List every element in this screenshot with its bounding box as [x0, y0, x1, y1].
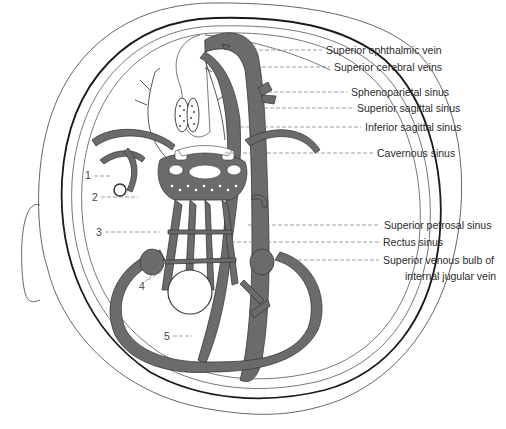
label-sphenoparietal-sinus: Sphenoparietal sinus	[351, 86, 449, 98]
label-superior-ophthalmic-vein: Superior ophthalmic vein	[326, 44, 442, 56]
olfactory-bulbs	[175, 98, 199, 132]
sinus-diagram: Superior ophthalmic vein Superior cerebr…	[0, 0, 506, 429]
label-number-1: 1	[85, 169, 91, 181]
label-number-5: 5	[164, 330, 170, 342]
label-superior-sagittal-sinus: Superior sagittal sinus	[357, 102, 460, 114]
label-number-2: 2	[92, 191, 98, 203]
ear-outline	[22, 204, 40, 301]
label-internal-jugular-vein: internal jugular vein	[405, 270, 496, 282]
left-jugular-bulb	[140, 249, 164, 275]
label-cavernous-sinus: Cavernous sinus	[377, 147, 455, 159]
label-superior-venous-bulb: Superior venous bulb of	[383, 254, 494, 266]
label-superior-petrosal-sinus: Superior petrosal sinus	[384, 219, 491, 231]
foramen-magnum	[168, 270, 212, 314]
sinus-network	[92, 33, 322, 382]
label-inferior-sagittal-sinus: Inferior sagittal sinus	[365, 121, 461, 133]
label-rectus-sinus: Rectus sinus	[383, 236, 443, 248]
label-superior-cerebral-veins: Superior cerebral veins	[334, 61, 442, 73]
label-number-3: 3	[96, 226, 102, 238]
right-jugular-bulb	[250, 249, 274, 275]
label-number-4: 4	[139, 280, 145, 292]
